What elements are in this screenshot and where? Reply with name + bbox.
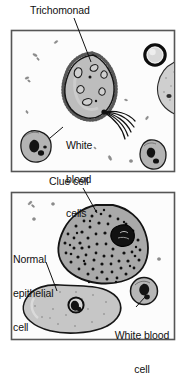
label-white-blood-cell-bottom: White blood cell <box>104 307 180 377</box>
label-line: cells <box>66 208 92 219</box>
trichomonad-panel <box>12 31 176 172</box>
epithelial-nucleus <box>68 297 83 312</box>
label-trichomonad: Trichomonad <box>30 5 90 16</box>
clue-cell-nucleus <box>111 225 135 247</box>
white-blood-cell-left <box>21 131 51 162</box>
white-blood-cell-bottom <box>131 278 158 305</box>
ring-cell <box>145 45 165 65</box>
label-normal-epithelial-cell: Normal epithelial cell <box>13 231 53 356</box>
label-line: White blood <box>104 330 180 341</box>
label-line: cell <box>104 364 180 375</box>
label-clue-cell: Clue cell <box>49 176 88 187</box>
white-blood-cell-right <box>140 140 166 169</box>
label-line: Normal <box>13 254 53 265</box>
label-line: White <box>66 140 92 151</box>
label-line: epithelial <box>13 288 53 299</box>
label-line: cell <box>13 322 53 333</box>
